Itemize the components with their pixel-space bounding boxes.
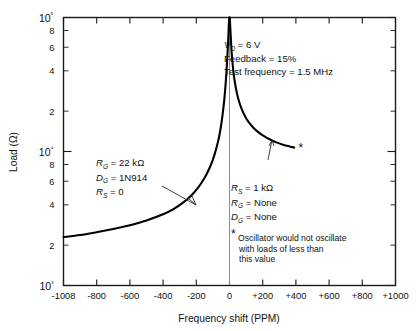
x-tick-label: +200 [252,291,273,301]
chart-container: -1008-800-600-400-2000+200+400+600+800+1… [0,0,416,331]
left-param-line: RS = 0 [96,186,124,199]
curve-right-branch [230,18,295,148]
x-tick-label: +1000 [382,291,408,301]
y-minor-label: 2 [49,107,54,117]
x-axis-tick-labels: -1008-800-600-400-2000+200+400+600+800+1… [52,291,409,301]
left-param-line: DG = 1N914 [96,172,148,185]
left-param-line: RG = 22 kΩ [96,157,144,170]
test-conditions-annotation: VD = 6 VFeedback = 15%Test frequency = 1… [224,39,333,77]
x-tick-label: -600 [121,291,140,301]
x-tick-label: -400 [154,291,173,301]
footnote-asterisk: * [231,227,236,241]
y-minor-label: 6 [49,177,54,187]
y-minor-label: 2 [49,241,54,251]
y-minor-label: 8 [49,26,54,36]
condition-line: Test frequency = 1.5 MHz [224,66,333,77]
y-minor-label: 4 [49,66,54,76]
y-minor-label: 4 [49,200,54,210]
y-minor-label: 6 [49,43,54,53]
x-tick-label: -800 [87,291,106,301]
data-markers: * [299,141,304,155]
right-param-line: RS = 1 kΩ [231,182,273,195]
right-param-line: DG = None [231,211,277,224]
y-major-label: 10⁴ [39,145,54,158]
y-minor-label: 8 [49,160,54,170]
x-tick-label: +600 [319,291,340,301]
x-tick-label: -1008 [52,291,76,301]
x-tick-label: -200 [187,291,206,301]
load-vs-frequency-shift-chart: -1008-800-600-400-2000+200+400+600+800+1… [0,0,416,331]
y-major-label: 10⁵ [39,11,54,24]
x-tick-label: +800 [352,291,373,301]
left-branch-annotation: RG = 22 kΩDG = 1N914RS = 0 [96,157,148,199]
condition-line: Feedback = 15% [224,53,297,64]
y-axis-tick-labels: 10³10⁴10⁵24682468 [39,11,55,292]
x-axis-title: Frequency shift (PPM) [178,313,279,324]
footnote-annotation: *Oscillator would not oscillatewith load… [231,227,347,264]
curve-left-branch [64,18,230,238]
footnote-line: with loads of less than [238,244,324,254]
footnote-line: Oscillator would not oscillate [238,233,347,243]
asterisk-marker: * [299,141,304,155]
condition-line: VD = 6 V [224,39,261,52]
right-param-line: RG = None [231,197,277,210]
x-tick-label: +400 [285,291,306,301]
x-tick-label: 0 [227,291,232,301]
right-branch-annotation: RS = 1 kΩRG = NoneDG = None [231,182,277,224]
y-axis-title: Load (Ω) [8,132,19,172]
footnote-line: this value [239,254,276,264]
